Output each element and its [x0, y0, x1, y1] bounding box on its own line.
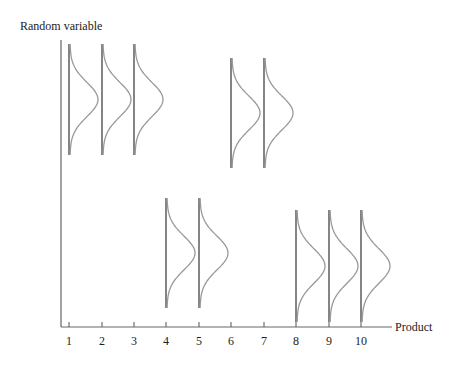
density-curve	[362, 210, 390, 322]
distribution-product-4	[166, 198, 195, 308]
x-tick-label: 6	[228, 334, 234, 348]
density-curve	[232, 58, 260, 168]
distribution-product-9	[329, 210, 358, 322]
x-tick-label: 9	[326, 334, 332, 348]
density-curve	[103, 44, 131, 155]
x-tick-label: 2	[99, 334, 105, 348]
x-tick-label: 4	[163, 334, 169, 348]
density-curve	[70, 44, 98, 155]
x-tick-label: 10	[355, 334, 367, 348]
x-axis-label: Product	[395, 320, 433, 334]
x-tick-label: 8	[293, 334, 299, 348]
x-tick-label: 7	[261, 334, 267, 348]
distributions	[69, 44, 390, 322]
distribution-product-8	[296, 210, 325, 322]
density-curve	[297, 210, 325, 322]
distribution-product-10	[361, 210, 390, 322]
distribution-product-1	[69, 44, 98, 155]
x-tick-label: 3	[131, 334, 137, 348]
density-curve	[265, 58, 293, 168]
distribution-product-6	[231, 58, 260, 168]
density-curve	[200, 198, 228, 308]
x-tick-label: 1	[66, 334, 72, 348]
density-curve	[330, 210, 358, 322]
distribution-product-3	[134, 44, 163, 155]
y-axis-label: Random variable	[20, 19, 102, 33]
distribution-product-7	[264, 58, 293, 168]
distribution-diagram: Random variable Product 12345678910	[0, 0, 466, 372]
distribution-product-5	[199, 198, 228, 308]
x-ticks: 12345678910	[66, 322, 367, 348]
distribution-product-2	[102, 44, 131, 155]
density-curve	[167, 198, 195, 308]
density-curve	[135, 44, 163, 155]
x-tick-label: 5	[196, 334, 202, 348]
